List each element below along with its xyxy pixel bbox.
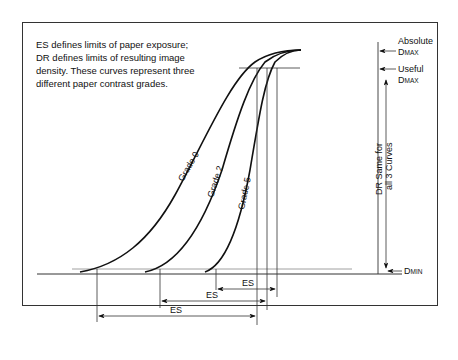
characteristic-curves-diagram: Grade 0 Grade 2 Grade 5 ES ES ES Absolut… [0, 0, 458, 360]
es-label-grade-5: ES [242, 278, 254, 288]
curve-grade-5 [205, 50, 301, 272]
dr-label-line-2: all 3 Curves [384, 142, 394, 190]
grade-5-label: Grade 5 [236, 177, 253, 211]
curve-grade-2 [145, 50, 301, 272]
useful-label: Useful [398, 64, 424, 74]
absolute-dmax-label: DMAX [398, 47, 419, 57]
useful-dmax-label: DMAX [398, 75, 419, 85]
dmin-label: DMIN [404, 266, 423, 276]
es-label-grade-2: ES [206, 290, 218, 300]
absolute-label: Absolute [398, 36, 433, 46]
grade-2-label: Grade 2 [205, 165, 225, 199]
grade-0-label: Grade 0 [176, 150, 201, 183]
es-label-grade-0: ES [170, 305, 182, 315]
dr-label-line-1: DR Same for [374, 143, 384, 195]
